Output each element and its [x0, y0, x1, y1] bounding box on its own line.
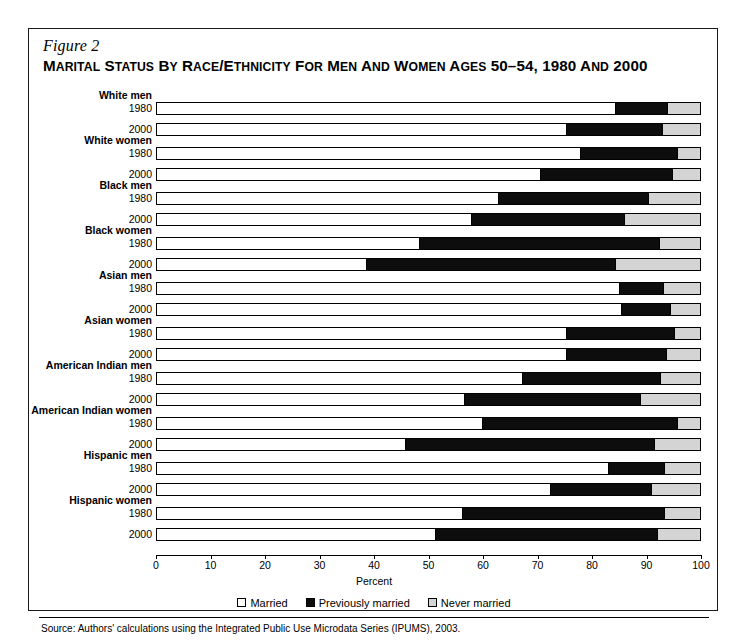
bar-segment-prev — [566, 328, 674, 339]
stacked-bar — [156, 123, 701, 136]
stacked-bar — [156, 438, 701, 451]
year-label: 1980 — [29, 148, 152, 159]
bar-segment-married — [157, 529, 435, 540]
stacked-bar — [156, 462, 701, 475]
bar-segment-never — [666, 349, 701, 360]
year-label: 1980 — [29, 103, 152, 114]
bar-segment-married — [157, 349, 566, 360]
bar-segment-prev — [580, 148, 677, 159]
bar-segment-prev — [522, 373, 660, 384]
bar-segment-prev — [464, 394, 640, 405]
bar-segment-married — [157, 238, 419, 249]
stacked-bar — [156, 483, 701, 496]
year-label: 1980 — [29, 418, 152, 429]
bar-segment-prev — [566, 349, 666, 360]
legend-swatch-never — [428, 598, 437, 607]
bar-segment-never — [615, 259, 701, 270]
legend-label: Married — [250, 597, 287, 609]
bar-segment-married — [157, 283, 619, 294]
bar-segment-prev — [462, 508, 664, 519]
bar-segment-never — [667, 103, 701, 114]
x-tick-label: 50 — [409, 559, 449, 571]
bar-segment-prev — [540, 169, 672, 180]
bar-segment-married — [157, 103, 615, 114]
bar-segment-never — [674, 328, 701, 339]
year-label: 1980 — [29, 283, 152, 294]
bar-segment-prev — [608, 463, 664, 474]
stacked-bar — [156, 168, 701, 181]
stacked-bar — [156, 258, 701, 271]
group-label-american-indian-men: American Indian men — [29, 360, 152, 371]
stacked-bar — [156, 507, 701, 520]
stacked-bar — [156, 393, 701, 406]
bar-segment-never — [670, 304, 701, 315]
bar-segment-married — [157, 508, 462, 519]
group-label-white-women: White women — [29, 135, 152, 146]
bar-segment-prev — [615, 103, 667, 114]
x-tick-label: 20 — [245, 559, 285, 571]
x-tick-label: 0 — [136, 559, 176, 571]
stacked-bar — [156, 192, 701, 205]
bar-segment-married — [157, 394, 464, 405]
group-label-black-women: Black women — [29, 225, 152, 236]
stacked-bar — [156, 282, 701, 295]
group-label-american-indian-women: American Indian women — [29, 405, 152, 416]
year-label: 1980 — [29, 238, 152, 249]
legend-item-previously-married: Previously married — [306, 596, 410, 609]
bar-segment-prev — [405, 439, 654, 450]
bar-segment-never — [648, 193, 701, 204]
bar-segment-never — [659, 238, 701, 249]
bar-segment-married — [157, 169, 540, 180]
legend-swatch-prev — [306, 598, 315, 607]
year-label: 1980 — [29, 328, 152, 339]
legend-label: Never married — [441, 597, 511, 609]
chart-plot-area: White men19802000White women19802000Blac… — [29, 29, 719, 612]
stacked-bar — [156, 417, 701, 430]
bar-segment-never — [662, 124, 701, 135]
group-label-hispanic-men: Hispanic men — [29, 450, 152, 461]
stacked-bar — [156, 147, 701, 160]
x-tick-label: 70 — [518, 559, 558, 571]
bar-segment-prev — [482, 418, 677, 429]
bar-segment-never — [672, 169, 701, 180]
legend-item-married: Married — [237, 596, 287, 609]
stacked-bar — [156, 303, 701, 316]
stacked-bar — [156, 327, 701, 340]
bar-segment-prev — [498, 193, 648, 204]
bar-segment-prev — [621, 304, 670, 315]
bar-segment-never — [660, 373, 701, 384]
bar-segment-prev — [619, 283, 663, 294]
legend-swatch-married — [237, 598, 246, 607]
bar-segment-prev — [419, 238, 659, 249]
x-tick-label: 80 — [572, 559, 612, 571]
bar-segment-never — [664, 463, 701, 474]
bar-segment-married — [157, 193, 498, 204]
bar-segment-never — [677, 148, 701, 159]
source-note: Source: Authors' calculations using the … — [41, 623, 460, 634]
bar-segment-married — [157, 214, 471, 225]
x-tick-label: 60 — [463, 559, 503, 571]
stacked-bar — [156, 372, 701, 385]
bar-segment-never — [664, 508, 701, 519]
x-axis-title: Percent — [29, 575, 719, 587]
x-tick-label: 30 — [300, 559, 340, 571]
group-label-asian-women: Asian women — [29, 315, 152, 326]
stacked-bar — [156, 102, 701, 115]
bar-segment-prev — [550, 484, 650, 495]
bar-segment-never — [654, 439, 701, 450]
year-label: 1980 — [29, 508, 152, 519]
year-label: 2000 — [29, 529, 152, 540]
stacked-bar — [156, 237, 701, 250]
bar-segment-married — [157, 484, 550, 495]
figure-container: Figure 2 MARITAL STATUS BY RACE/ETHNICIT… — [28, 28, 718, 611]
bar-segment-married — [157, 124, 566, 135]
legend-item-never-married: Never married — [428, 596, 511, 609]
x-tick-label: 10 — [191, 559, 231, 571]
group-label-hispanic-women: Hispanic women — [29, 495, 152, 506]
bar-segment-married — [157, 304, 621, 315]
stacked-bar — [156, 528, 701, 541]
bar-segment-prev — [435, 529, 657, 540]
x-tick-label: 40 — [354, 559, 394, 571]
year-label: 1980 — [29, 463, 152, 474]
group-label-black-men: Black men — [29, 180, 152, 191]
